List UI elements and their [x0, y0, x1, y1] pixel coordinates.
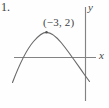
vertex-point-marker	[45, 31, 48, 34]
y-axis-label: y	[88, 2, 93, 13]
vertex-coordinate-label: (−3, 2)	[43, 17, 74, 28]
x-axis-label: x	[99, 50, 104, 61]
figure-container: 1. (−3, 2) y x	[0, 0, 109, 108]
problem-number-label: 1.	[1, 1, 10, 13]
